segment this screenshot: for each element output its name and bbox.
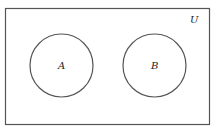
universe-label: U <box>190 14 199 25</box>
venn-diagram: U A B <box>0 0 215 139</box>
set-b-label: B <box>150 60 158 71</box>
universe-rectangle <box>6 9 210 125</box>
set-a-label: A <box>57 60 65 71</box>
